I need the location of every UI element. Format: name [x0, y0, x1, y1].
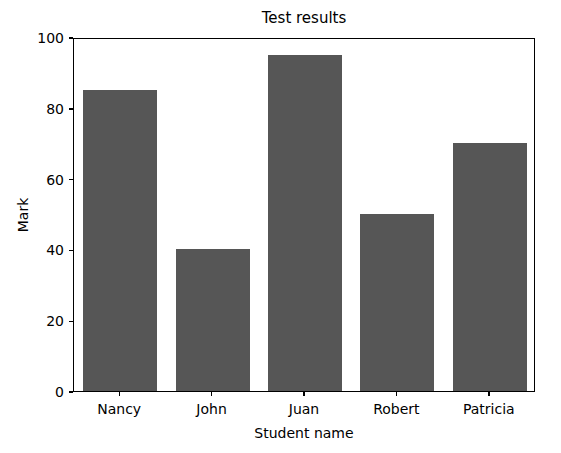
bars-layer — [74, 39, 534, 391]
x-tick-label: John — [196, 400, 226, 418]
x-tick-mark — [303, 392, 304, 396]
chart-title: Test results — [73, 9, 535, 27]
chart-figure: Test results Mark 020406080100 NancyJohn… — [0, 0, 561, 453]
y-tick-label: 40 — [46, 241, 64, 259]
bar — [453, 143, 527, 391]
x-tick-mark — [211, 392, 212, 396]
x-tick-label: Patricia — [463, 400, 515, 418]
y-tick-label: 60 — [46, 171, 64, 189]
y-tick-label: 100 — [37, 29, 64, 47]
y-tick-label: 20 — [46, 312, 64, 330]
x-tick-mark — [396, 392, 397, 396]
bar — [176, 249, 250, 391]
x-tick-label: Nancy — [97, 400, 141, 418]
x-tick-label: Juan — [289, 400, 319, 418]
x-tick-mark — [119, 392, 120, 396]
y-tick-label: 80 — [46, 100, 64, 118]
bar — [360, 214, 434, 391]
bar — [268, 55, 342, 391]
x-tick-label: Robert — [373, 400, 419, 418]
x-tick-mark — [488, 392, 489, 396]
plot-area — [73, 38, 535, 392]
bar — [83, 90, 157, 391]
x-axis-label: Student name — [73, 424, 535, 442]
y-axis: 020406080100 — [0, 38, 73, 392]
y-tick-label: 0 — [55, 383, 64, 401]
